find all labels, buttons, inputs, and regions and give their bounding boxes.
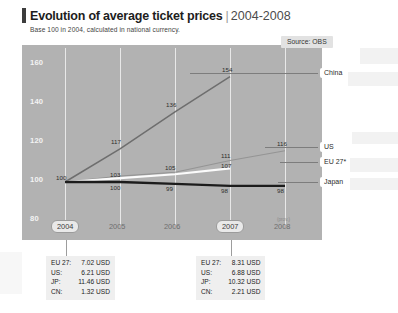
value-amount-eu27: 8.31 USD (228, 259, 260, 269)
table-row: CN: 2.21 USD (201, 288, 260, 298)
label-japan-2008: 98 (277, 187, 284, 194)
page-title-years: 2004-2008 (231, 9, 291, 23)
page-artifact-right-mid (352, 132, 398, 144)
table-row: JP: 11.46 USD (51, 278, 110, 288)
legend-item-china[interactable]: China (320, 68, 346, 78)
label-us-2008: 116 (277, 140, 287, 147)
value-amount-jp: 10.32 USD (228, 278, 260, 288)
chart-header: Evolution of average ticket prices|2004-… (0, 0, 398, 42)
page-artifact-top-right (360, 48, 398, 64)
legend-item-eu27[interactable]: EU 27* (320, 157, 350, 167)
legend-leader-us (265, 147, 318, 148)
value-key-cn: CN: (201, 288, 228, 298)
page-title-main: Evolution of average ticket prices (30, 9, 223, 23)
table-row: JP: 10.32 USD (201, 278, 260, 288)
chart-panel: 160 140 120 100 80 100 117 136 154 103 1… (22, 45, 322, 240)
legend-leader-china (190, 73, 318, 74)
title-separator: | (223, 9, 231, 23)
legend-leader-eu27 (280, 162, 318, 163)
title-accent-bar (22, 8, 26, 23)
series-line-eu27 (65, 168, 230, 182)
table-row: EU 27: 8.31 USD (201, 259, 260, 269)
ytick-120: 120 (30, 136, 43, 145)
page-artifact-right-upper (348, 72, 398, 86)
value-box-2007: EU 27: 8.31 USD US: 6.88 USD JP: 10.32 U… (196, 256, 265, 300)
label-us-2007: 111 (221, 152, 230, 159)
table-row: EU 27: 7.02 USD (51, 259, 110, 269)
table-row: CN: 1.32 USD (51, 288, 110, 298)
legend-item-us[interactable]: US (320, 142, 338, 152)
page-title: Evolution of average ticket prices|2004-… (30, 6, 291, 24)
value-key-eu27: EU 27: (51, 259, 78, 269)
value-table-2007: EU 27: 8.31 USD US: 6.88 USD JP: 10.32 U… (201, 259, 260, 297)
source-badge: Source: OBS (281, 36, 333, 48)
xtick-2005: 2005 (109, 222, 125, 231)
x-axis: 2004 2005 2006 2007 (prov.) 2008 (22, 218, 322, 242)
value-key-eu27: EU 27: (201, 259, 228, 269)
ytick-160: 160 (30, 58, 43, 67)
page-artifact-bottom-left (0, 252, 22, 294)
label-eu27-2007: 107 (221, 162, 231, 169)
value-key-us: US: (201, 269, 228, 279)
table-row: US: 6.21 USD (51, 269, 110, 279)
value-key-jp: JP: (201, 278, 228, 288)
value-amount-cn: 1.32 USD (78, 288, 110, 298)
legend-item-japan[interactable]: Japan (320, 177, 347, 187)
chart-subtitle: Base 100 in 2004, calculated in national… (30, 26, 180, 33)
xtick-2008: 2008 (274, 222, 290, 231)
value-amount-cn: 2.21 USD (228, 288, 260, 298)
table-row: US: 6.88 USD (201, 269, 260, 279)
plot-area (65, 48, 305, 228)
label-japan-2007: 98 (221, 187, 228, 194)
xtick-2006: 2006 (164, 222, 180, 231)
value-key-us: US: (51, 269, 78, 279)
ytick-100: 100 (30, 175, 43, 184)
xtick-2004[interactable]: 2004 (51, 220, 79, 233)
label-china-2005: 117 (111, 138, 121, 145)
value-table-2004: EU 27: 7.02 USD US: 6.21 USD JP: 11.46 U… (51, 259, 110, 297)
page-artifact-right-lower (350, 158, 398, 172)
label-us-2006: 105 (165, 164, 175, 171)
value-amount-jp: 11.46 USD (78, 278, 110, 288)
value-amount-eu27: 7.02 USD (78, 259, 110, 269)
label-china-2007: 154 (222, 66, 232, 73)
legend-leader-japan (278, 182, 318, 183)
callout-stem-2004 (66, 240, 67, 256)
xtick-2007[interactable]: 2007 (216, 220, 244, 233)
value-key-cn: CN: (51, 288, 78, 298)
value-key-jp: JP: (51, 278, 78, 288)
label-us-2005: 103 (110, 171, 120, 178)
series-line-japan (65, 182, 285, 186)
callout-stem-2007 (231, 240, 232, 256)
value-box-2004: EU 27: 7.02 USD US: 6.21 USD JP: 11.46 U… (46, 256, 115, 300)
label-japan-2005: 100 (110, 184, 120, 191)
series-lines (65, 48, 305, 228)
label-china-2006: 136 (166, 101, 176, 108)
value-amount-us: 6.88 USD (228, 269, 260, 279)
value-amount-us: 6.21 USD (78, 269, 110, 279)
label-japan-2006: 99 (166, 185, 173, 192)
page-artifact-right-bottom (350, 178, 398, 190)
ytick-140: 140 (30, 97, 43, 106)
label-china-2004: 100 (56, 174, 66, 181)
